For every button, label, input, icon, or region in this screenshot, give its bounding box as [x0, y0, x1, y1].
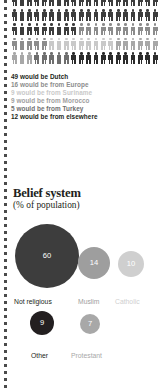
- person-icon: [78, 0, 85, 8]
- person-icon: [48, 23, 55, 37]
- person-icon: [92, 37, 99, 51]
- person-icon: [70, 52, 77, 66]
- person-icon: [18, 37, 25, 51]
- person-icon: [48, 52, 55, 66]
- person-icon: [33, 37, 40, 51]
- belief-bubble-value: 60: [43, 252, 51, 260]
- person-icon: [137, 37, 144, 51]
- person-icon: [33, 8, 40, 22]
- person-icon: [70, 23, 77, 37]
- person-icon: [26, 52, 33, 66]
- pictogram-row: [11, 52, 159, 66]
- person-icon: [48, 8, 55, 22]
- person-icon: [41, 37, 48, 51]
- person-icon: [92, 52, 99, 66]
- belief-bubble-catholic[interactable]: 10: [118, 251, 144, 277]
- person-icon: [18, 0, 25, 8]
- person-icon: [92, 8, 99, 22]
- belief-bubble-muslim[interactable]: 14: [78, 247, 110, 279]
- person-icon: [144, 52, 151, 66]
- pictogram-legend-item: 12 would be from elsewhere: [11, 113, 159, 121]
- pictogram-legend-item: 5 would be from Turkey: [11, 105, 159, 113]
- belief-bubble-label: Not religious: [14, 298, 52, 305]
- person-icon: [137, 8, 144, 22]
- belief-bubble-label: Protestant: [71, 352, 102, 359]
- person-icon: [11, 37, 18, 51]
- person-icon: [151, 52, 158, 66]
- person-icon: [18, 8, 25, 22]
- person-icon: [70, 37, 77, 51]
- person-icon: [70, 8, 77, 22]
- person-icon: [114, 23, 121, 37]
- person-icon: [122, 52, 129, 66]
- person-icon: [129, 0, 136, 8]
- person-icon: [107, 52, 114, 66]
- person-icon: [55, 8, 62, 22]
- person-icon: [129, 37, 136, 51]
- belief-bubble-not-religious[interactable]: 60: [15, 224, 79, 288]
- pictogram-legend-item: 16 would be from Europe: [11, 81, 159, 89]
- person-icon: [114, 37, 121, 51]
- person-icon: [26, 23, 33, 37]
- person-icon: [63, 37, 70, 51]
- person-icon: [137, 0, 144, 8]
- person-icon: [129, 8, 136, 22]
- person-icon: [85, 52, 92, 66]
- person-icon: [92, 23, 99, 37]
- person-icon: [122, 0, 129, 8]
- person-icon: [78, 52, 85, 66]
- person-icon: [26, 8, 33, 22]
- pictogram-legend-item: 9 would be from Suriname: [11, 89, 159, 97]
- person-icon: [114, 8, 121, 22]
- person-icon: [151, 0, 158, 8]
- person-icon: [85, 8, 92, 22]
- person-icon: [129, 23, 136, 37]
- pictogram-row: [11, 23, 159, 37]
- person-icon: [85, 0, 92, 8]
- person-icon: [55, 23, 62, 37]
- person-icon: [33, 52, 40, 66]
- person-icon: [137, 52, 144, 66]
- person-icon: [41, 0, 48, 8]
- person-icon: [122, 8, 129, 22]
- person-icon: [70, 0, 77, 8]
- pictogram-legend-item: 49 would be Dutch: [11, 73, 159, 81]
- person-icon: [122, 37, 129, 51]
- person-icon: [41, 23, 48, 37]
- person-icon: [151, 8, 158, 22]
- person-icon: [107, 37, 114, 51]
- belief-bubble-value: 9: [40, 319, 44, 327]
- person-icon: [26, 37, 33, 51]
- person-icon: [144, 0, 151, 8]
- person-icon: [33, 23, 40, 37]
- person-icon: [151, 23, 158, 37]
- person-icon: [100, 8, 107, 22]
- person-icon: [144, 8, 151, 22]
- pictogram-chart: [11, 0, 159, 66]
- belief-bubble-other[interactable]: 9: [30, 311, 54, 335]
- person-icon: [144, 23, 151, 37]
- person-icon: [100, 0, 107, 8]
- belief-bubble-label: Other: [31, 352, 48, 359]
- person-icon: [11, 52, 18, 66]
- belief-bubble-label: Muslim: [78, 298, 100, 305]
- person-icon: [33, 0, 40, 8]
- person-icon: [78, 8, 85, 22]
- person-icon: [18, 52, 25, 66]
- belief-bubble-protestant[interactable]: 7: [80, 314, 100, 334]
- person-icon: [114, 0, 121, 8]
- person-icon: [11, 0, 18, 8]
- person-icon: [55, 52, 62, 66]
- person-icon: [85, 23, 92, 37]
- person-icon: [78, 23, 85, 37]
- person-icon: [100, 23, 107, 37]
- pictogram-row: [11, 37, 159, 51]
- person-icon: [100, 37, 107, 51]
- pictogram-row: [11, 8, 159, 22]
- person-icon: [55, 37, 62, 51]
- person-icon: [92, 0, 99, 8]
- belief-bubble-label: Catholic: [115, 298, 140, 305]
- belief-bubble-value: 14: [90, 259, 98, 267]
- person-icon: [63, 8, 70, 22]
- person-icon: [100, 52, 107, 66]
